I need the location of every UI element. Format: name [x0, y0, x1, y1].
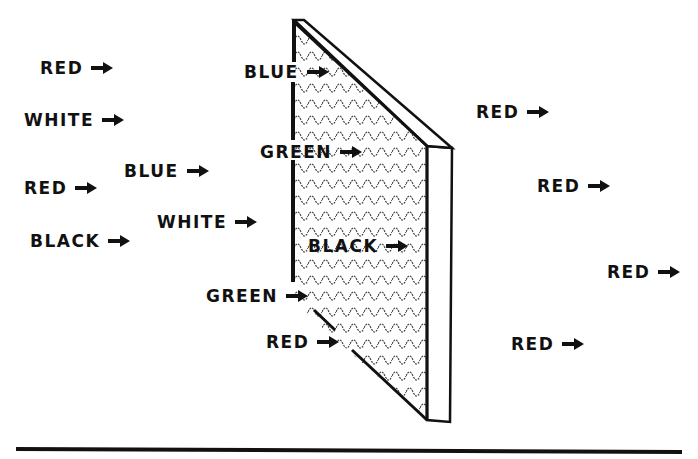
- ray-label: BLACK: [308, 236, 378, 256]
- right-arrow-icon: [527, 106, 549, 118]
- ray-outgoing-red-3: RED: [607, 262, 680, 282]
- right-arrow-icon: [235, 216, 257, 228]
- right-arrow-icon: [562, 338, 584, 350]
- ray-incoming-green-2: GREEN: [206, 286, 308, 306]
- ray-incoming-red-3: RED: [266, 332, 339, 352]
- ray-label: GREEN: [260, 142, 332, 162]
- filter-side-face: [427, 146, 452, 422]
- right-arrow-icon: [91, 62, 113, 74]
- ray-label: WHITE: [157, 212, 227, 232]
- right-arrow-icon: [317, 336, 339, 348]
- right-arrow-icon: [386, 240, 408, 252]
- ray-label: RED: [266, 332, 309, 352]
- right-arrow-icon: [307, 66, 329, 78]
- ray-outgoing-red-4: RED: [511, 334, 584, 354]
- ray-label: RED: [537, 176, 580, 196]
- ray-incoming-blue-2: BLUE: [244, 62, 329, 82]
- ray-incoming-green-1: GREEN: [260, 142, 362, 162]
- right-arrow-icon: [108, 235, 130, 247]
- ray-label: BLUE: [124, 161, 179, 181]
- ray-outgoing-red-1: RED: [476, 102, 549, 122]
- ray-label: RED: [40, 58, 83, 78]
- ray-label: GREEN: [206, 286, 278, 306]
- ray-outgoing-red-2: RED: [537, 176, 610, 196]
- ground-line: [16, 449, 682, 452]
- right-arrow-icon: [588, 180, 610, 192]
- right-arrow-icon: [340, 146, 362, 158]
- ray-incoming-white-2: WHITE: [157, 212, 257, 232]
- ray-label: BLUE: [244, 62, 299, 82]
- diagram-canvas: RED WHITE RED BLACK BLUE WHITE BLUE GREE…: [0, 0, 698, 459]
- ray-label: RED: [607, 262, 650, 282]
- right-arrow-icon: [75, 182, 97, 194]
- right-arrow-icon: [102, 114, 124, 126]
- ray-incoming-white-1: WHITE: [24, 110, 124, 130]
- ray-incoming-red-2: RED: [24, 178, 97, 198]
- ray-incoming-black-2: BLACK: [308, 236, 408, 256]
- ray-incoming-black-1: BLACK: [30, 231, 130, 251]
- right-arrow-icon: [658, 266, 680, 278]
- ray-label: RED: [511, 334, 554, 354]
- ray-label: RED: [24, 178, 67, 198]
- ray-incoming-red-1: RED: [40, 58, 113, 78]
- ray-label: WHITE: [24, 110, 94, 130]
- right-arrow-icon: [286, 290, 308, 302]
- ray-label: BLACK: [30, 231, 100, 251]
- ray-label: RED: [476, 102, 519, 122]
- ray-incoming-blue-1: BLUE: [124, 161, 209, 181]
- right-arrow-icon: [187, 165, 209, 177]
